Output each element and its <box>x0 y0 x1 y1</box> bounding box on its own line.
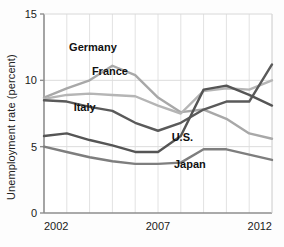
x-axis-ticks: 200220072012 <box>44 220 272 232</box>
x-tick-label-2012: 2012 <box>248 220 272 232</box>
series-label-us: U.S. <box>172 131 193 143</box>
y-tick-label-0: 0 <box>31 207 37 219</box>
y-axis-ticks: 051015 <box>25 8 44 219</box>
series-label-italy: Italy <box>74 101 97 113</box>
series-label-france: France <box>92 65 128 77</box>
y-tick-label-15: 15 <box>25 8 37 20</box>
x-tick-label-2002: 2002 <box>44 220 68 232</box>
series-label-germany: Germany <box>69 41 118 53</box>
y-tick-label-5: 5 <box>31 141 37 153</box>
y-axis-title: Unemployment rate (percent) <box>5 54 17 200</box>
chart-figure: 051015 200220072012 GermanyFranceItalyU.… <box>0 0 284 247</box>
y-tick-label-10: 10 <box>25 74 37 86</box>
x-tick-label-2007: 2007 <box>146 220 170 232</box>
unemployment-rate-line-chart: 051015 200220072012 GermanyFranceItalyU.… <box>0 0 284 247</box>
series-label-japan: Japan <box>174 158 206 170</box>
